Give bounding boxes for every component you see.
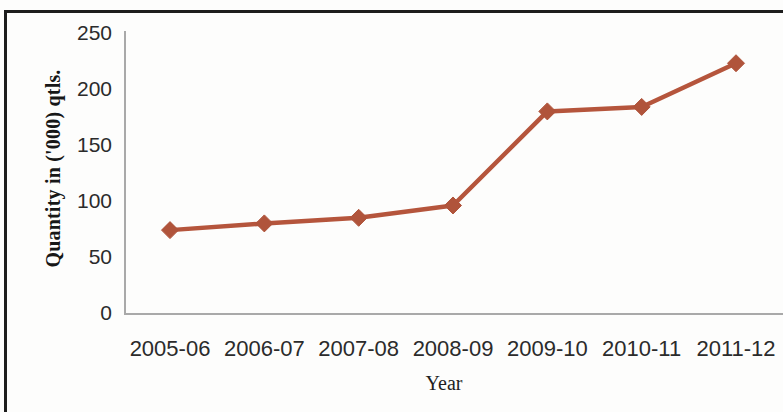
x-axis-tick-label: 2007-08 [318,336,399,362]
x-axis-tick-label: 2005-06 [130,336,211,362]
y-axis-tick-label: 150 [54,133,112,157]
series-markers [162,55,745,239]
x-axis-tick-label: 2008-09 [413,336,494,362]
y-axis-tick-labels: 050100150200250 [50,33,112,313]
x-axis-tick-label: 2006-07 [224,336,305,362]
y-axis-tick-label: 0 [54,301,112,325]
chart-figure: Quantity in ('000) qtls. 050100150200250… [0,0,783,412]
series-data-point [728,55,745,72]
series-quantity [124,33,783,313]
series-data-point [350,209,367,226]
x-axis-title: Year [124,372,764,395]
x-axis-tick-label: 2010-11 [602,336,681,362]
x-axis-tick-labels: 2005-062006-072007-082008-092009-102010-… [104,336,783,368]
x-axis-tick-label: 2011-12 [696,336,775,362]
series-data-point [256,215,273,232]
plot-area [124,33,783,313]
y-axis-tick-label: 100 [54,189,112,213]
x-axis-line [124,313,783,315]
x-axis-tick-label: 2009-10 [507,336,588,362]
y-axis-tick-label: 250 [54,21,112,45]
y-axis-tick-label: 50 [54,245,112,269]
series-data-point [633,98,650,115]
y-axis-tick-label: 200 [54,77,112,101]
series-data-point [162,222,179,239]
